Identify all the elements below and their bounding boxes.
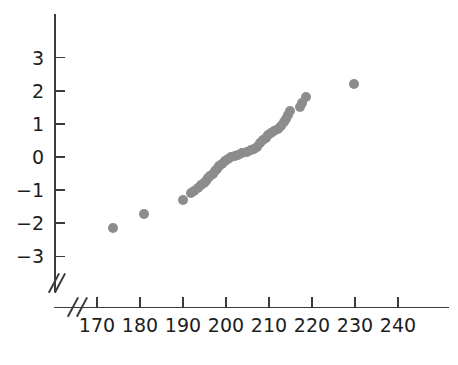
data-point [349, 79, 359, 89]
data-point [178, 195, 188, 205]
data-point [301, 92, 311, 102]
data-point [285, 106, 295, 116]
data-point [139, 209, 149, 219]
normal-quantile-plot-figure: 3210−1−2−3 170180190200210220230240 [0, 0, 458, 365]
data-point [108, 223, 118, 233]
scatter-plot-area [0, 0, 458, 365]
